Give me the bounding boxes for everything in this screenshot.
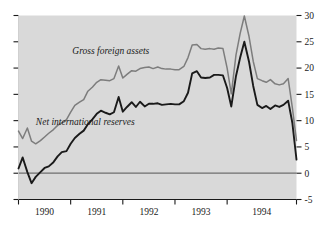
y-axis-tick-label: 30 (305, 11, 315, 21)
x-axis-category-label: 1994 (252, 207, 271, 217)
plot-background (19, 16, 297, 200)
x-axis-category-label: 1992 (139, 207, 158, 217)
x-axis-category-label: 1990 (35, 207, 54, 217)
y-axis-tick-label: 25 (305, 37, 315, 47)
series-label-net-international-reserves: Net international reserves (35, 117, 135, 127)
x-axis-category-label: 1991 (87, 207, 106, 217)
y-axis-tick-label: 20 (305, 63, 315, 73)
y-axis-tick-label: -5 (305, 195, 313, 205)
y-axis-tick-label: 15 (305, 90, 315, 100)
y-axis-tick-label: 10 (305, 116, 315, 126)
y-axis-tick-label: 0 (305, 169, 310, 179)
x-axis-category-label: 1993 (192, 207, 211, 217)
line-chart: -505101520253019901991199219931994Gross … (0, 0, 332, 227)
series-label-gross-foreign-assets: Gross foreign assets (72, 46, 149, 56)
chart-figure: -505101520253019901991199219931994Gross … (0, 0, 332, 227)
y-axis-tick-label: 5 (305, 142, 310, 152)
